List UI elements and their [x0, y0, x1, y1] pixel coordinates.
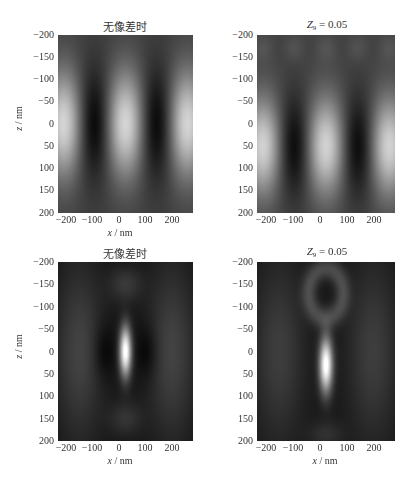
- heatmap-plot: [58, 35, 193, 213]
- ytick: −150: [219, 279, 253, 289]
- ytick: −50: [20, 324, 54, 334]
- panel-title: 无像差时: [55, 245, 195, 261]
- ytick: 100: [20, 391, 54, 401]
- panel-title: Z9 = 0.05: [257, 18, 397, 32]
- ytick: 150: [20, 185, 54, 195]
- ytick: 200: [219, 208, 253, 218]
- ytick: 50: [219, 141, 253, 151]
- ytick: −150: [20, 279, 54, 289]
- panel-title: 无像差时: [55, 18, 195, 34]
- ytick: 150: [20, 414, 54, 424]
- heatmap-plot: [58, 262, 193, 441]
- ytick: −200: [20, 257, 54, 267]
- ytick: 50: [219, 369, 253, 379]
- ytick: −100: [20, 74, 54, 84]
- ytick: 0: [219, 347, 253, 357]
- ytick: −200: [219, 30, 253, 40]
- ytick: −100: [219, 302, 253, 312]
- x-axis-label: x / nm: [90, 227, 150, 238]
- ytick: −200: [219, 257, 253, 267]
- y-axis-label: z / nm: [13, 327, 24, 367]
- x-axis-label: x / nm: [295, 455, 355, 466]
- ytick: 50: [20, 141, 54, 151]
- ytick: 50: [20, 369, 54, 379]
- ytick: −50: [20, 96, 54, 106]
- ytick: 150: [219, 185, 253, 195]
- ytick: −100: [20, 302, 54, 312]
- ytick: −150: [219, 52, 253, 62]
- xtick: 200: [357, 442, 391, 453]
- ytick: 150: [219, 414, 253, 424]
- ytick: 200: [219, 436, 253, 446]
- ytick: 100: [219, 391, 253, 401]
- ytick: 100: [20, 163, 54, 173]
- xtick: 200: [155, 214, 189, 225]
- panel-title: Z9 = 0.05: [257, 245, 397, 259]
- ytick: −50: [219, 324, 253, 334]
- heatmap-plot: [257, 262, 395, 441]
- y-axis-label: z / nm: [13, 99, 24, 139]
- heatmap-plot: [257, 35, 395, 213]
- ytick: −50: [219, 96, 253, 106]
- ytick: 0: [20, 347, 54, 357]
- ytick: 0: [219, 119, 253, 129]
- ytick: −100: [219, 74, 253, 84]
- xtick: 200: [357, 214, 391, 225]
- x-axis-label: x / nm: [90, 455, 150, 466]
- ytick: 0: [20, 119, 54, 129]
- ytick: −200: [20, 30, 54, 40]
- xtick: 200: [155, 442, 189, 453]
- ytick: −150: [20, 52, 54, 62]
- ytick: 100: [219, 163, 253, 173]
